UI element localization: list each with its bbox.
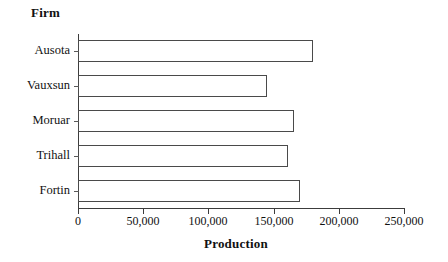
y-axis-label-trihall: Trihall: [2, 148, 70, 163]
bar-rect: [78, 180, 300, 202]
x-axis-tick-label: 250,000: [385, 214, 424, 229]
bar-rect: [78, 145, 288, 167]
bar-chart: Firm Production AusotaVauxsunMoruarTriha…: [0, 0, 448, 262]
y-axis-label-fortin: Fortin: [2, 183, 70, 198]
y-axis-label-ausota: Ausota: [2, 43, 70, 58]
x-axis-tick-label: 200,000: [320, 214, 359, 229]
y-axis-label-vauxsun: Vauxsun: [2, 78, 70, 93]
bar-rect: [78, 110, 294, 132]
y-axis-title: Firm: [31, 5, 60, 21]
x-axis-tick-label: 50,000: [127, 214, 160, 229]
plot-area: [78, 34, 404, 208]
x-axis-tick-label: 0: [75, 214, 81, 229]
bar-rect: [78, 75, 267, 97]
x-axis-tick-label: 150,000: [255, 214, 294, 229]
y-axis-label-moruar: Moruar: [2, 113, 70, 128]
bar-rect: [78, 40, 313, 62]
y-axis-tick: [74, 86, 79, 87]
y-axis-tick: [74, 156, 79, 157]
y-axis-tick: [74, 51, 79, 52]
x-axis-tick-label: 100,000: [189, 214, 228, 229]
x-axis-line: [78, 208, 405, 209]
y-axis-tick: [74, 121, 79, 122]
x-axis-title: Production: [0, 236, 448, 252]
y-axis-tick: [74, 191, 79, 192]
